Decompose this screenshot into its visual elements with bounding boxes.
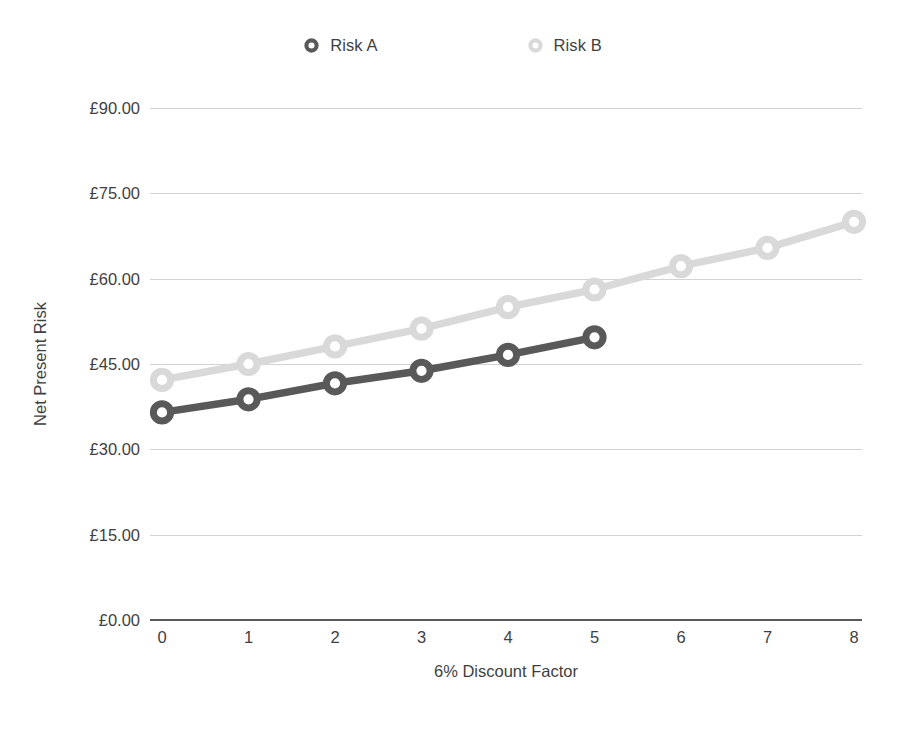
x-tick-label: 0 [142,628,182,647]
x-tick-label: 3 [402,628,442,647]
y-axis-title: Net Present Risk [31,254,50,474]
x-axis-title: 6% Discount Factor [150,662,862,681]
x-tick-label: 4 [488,628,528,647]
x-tick-label: 5 [575,628,615,647]
x-tick-label: 1 [229,628,269,647]
x-axis-tick-labels: 012345678 [0,0,906,730]
x-tick-label: 7 [748,628,788,647]
x-tick-label: 2 [315,628,355,647]
x-tick-label: 8 [834,628,874,647]
x-tick-label: 6 [661,628,701,647]
chart-container: Risk A Risk B £0.00£15.00£30.00£45.00£60… [0,0,906,730]
